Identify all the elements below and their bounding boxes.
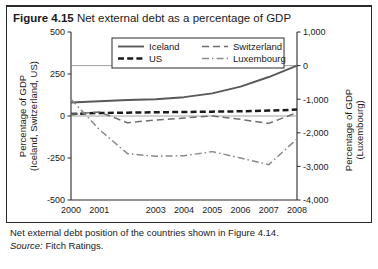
chart-legend: IcelandSwitzerlandUSLuxembourg bbox=[112, 38, 286, 68]
x-tick-label: 2007 bbox=[259, 205, 279, 215]
page-title: Net external debt as a percentage of GDP bbox=[77, 12, 291, 24]
x-tick-label: 2004 bbox=[174, 205, 194, 215]
x-tick-label: 2003 bbox=[146, 205, 166, 215]
legend-label-switzerland: Switzerland bbox=[233, 41, 282, 52]
y-axis-right: 1,0000-1,000-2,000-3,000-4,000 bbox=[297, 28, 329, 205]
y-tick-label-right: 0 bbox=[303, 61, 308, 71]
legend-label-us: US bbox=[149, 53, 162, 64]
y-axis-title-right: Percentage of GDP bbox=[343, 89, 354, 171]
figure-source: Source: Fitch Ratings. bbox=[10, 239, 310, 252]
data-series-group bbox=[71, 66, 297, 165]
y-axis-title-left: Percentage of GDP bbox=[17, 75, 28, 157]
figure-container: Figure 4.15 Net external debt as a perce… bbox=[0, 0, 378, 269]
y-tick-label-left: 250 bbox=[50, 69, 65, 79]
source-value: Fitch Ratings. bbox=[45, 240, 103, 251]
y-tick-label-right: -4,000 bbox=[303, 195, 329, 205]
figure-caption-block: Net external debt position of the countr… bbox=[10, 226, 310, 252]
x-axis: 20002001200320042005200620072008 bbox=[61, 205, 307, 215]
x-tick-label: 2000 bbox=[61, 205, 81, 215]
y-tick-label-left: 500 bbox=[50, 28, 65, 37]
figure-caption: Net external debt position of the countr… bbox=[10, 226, 310, 239]
x-tick-label: 2005 bbox=[202, 205, 222, 215]
chart-plot-area: 5002500-250-500 1,0000-1,000-2,000-3,000… bbox=[0, 28, 378, 220]
line-chart-svg: 5002500-250-500 1,0000-1,000-2,000-3,000… bbox=[0, 28, 378, 220]
figure-title: Figure 4.15 Net external debt as a perce… bbox=[13, 12, 291, 24]
y-axis-title-right-2: (Luxembourg) bbox=[354, 100, 365, 159]
source-label: Source: bbox=[10, 240, 43, 251]
y-tick-label-right: -1,000 bbox=[303, 95, 329, 105]
y-tick-label-left: 0 bbox=[60, 111, 65, 121]
x-tick-label: 2001 bbox=[89, 205, 109, 215]
y-tick-label-left: -250 bbox=[47, 153, 65, 163]
y-tick-label-right: -2,000 bbox=[303, 128, 329, 138]
series-line-switzerland bbox=[71, 112, 297, 123]
y-tick-label-left: -500 bbox=[47, 195, 65, 205]
y-axis-left: 5002500-250-500 bbox=[47, 28, 71, 205]
y-tick-label-right: -3,000 bbox=[303, 162, 329, 172]
x-tick-label: 2008 bbox=[287, 205, 307, 215]
y-axis-title-left-2: (Iceland, Switzerland, US) bbox=[28, 61, 39, 171]
legend-label-luxembourg: Luxembourg bbox=[233, 53, 286, 64]
y-tick-label-right: 1,000 bbox=[303, 28, 326, 37]
x-tick-label: 2006 bbox=[230, 205, 250, 215]
figure-number: Figure 4.15 bbox=[13, 12, 74, 24]
series-line-luxembourg bbox=[71, 99, 297, 165]
gridlines bbox=[71, 66, 297, 116]
series-line-iceland bbox=[71, 66, 297, 103]
figure-bottom-rule bbox=[6, 222, 372, 223]
legend-label-iceland: Iceland bbox=[149, 41, 180, 52]
figure-top-rule bbox=[6, 5, 372, 7]
